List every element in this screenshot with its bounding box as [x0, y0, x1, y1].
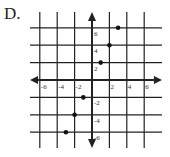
data-point: [64, 130, 69, 135]
coordinate-plane: -6-4-2246642-2-4-6: [0, 0, 170, 157]
x-tick-label: 2: [110, 83, 114, 91]
x-tick-label: -6: [41, 83, 47, 91]
y-tick-label: -6: [94, 134, 100, 142]
x-axis-left-arrow-icon: [30, 76, 38, 84]
y-tick-label: -2: [94, 99, 100, 107]
data-point: [98, 60, 103, 65]
x-tick-label: 4: [128, 83, 132, 91]
y-tick-label: -4: [94, 117, 100, 125]
data-point: [81, 95, 86, 100]
data-point: [72, 113, 77, 118]
y-tick-label: 4: [94, 47, 98, 55]
data-point: [107, 43, 112, 48]
x-tick-label: 6: [145, 83, 149, 91]
x-axis-right-arrow-icon: [154, 76, 162, 84]
x-tick-label: -4: [58, 83, 64, 91]
data-point: [116, 26, 121, 31]
x-tick-label: -2: [76, 83, 82, 91]
y-tick-label: 2: [94, 65, 98, 73]
y-tick-label: 6: [94, 30, 98, 38]
y-axis-up-arrow-icon: [88, 12, 96, 21]
